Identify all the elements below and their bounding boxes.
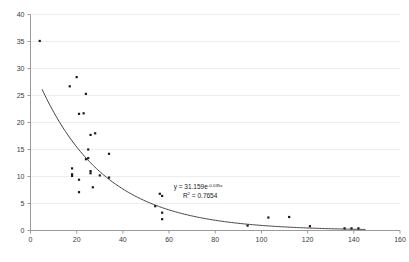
data-point	[343, 227, 345, 229]
data-point	[71, 167, 73, 169]
data-point	[92, 186, 94, 188]
data-point	[357, 227, 359, 229]
data-point	[87, 157, 89, 159]
data-point	[99, 174, 101, 176]
y-axis-tick-label: 30	[17, 65, 25, 72]
y-axis-tick-label: 40	[17, 11, 25, 18]
data-point	[89, 172, 91, 174]
data-point	[108, 176, 110, 178]
data-point	[78, 191, 80, 193]
y-axis-tick-label: 20	[17, 119, 25, 126]
y-axis-tick-label: 15	[17, 146, 25, 153]
data-point	[39, 40, 41, 42]
data-point	[78, 113, 80, 115]
y-axis-tick-label: 25	[17, 92, 25, 99]
data-point	[267, 216, 269, 218]
data-point	[161, 218, 163, 220]
data-point	[85, 158, 87, 160]
data-point	[159, 193, 161, 195]
data-point	[89, 134, 91, 136]
data-point	[350, 227, 352, 229]
x-axis-tick-label: 100	[256, 236, 268, 243]
data-point	[85, 93, 87, 95]
y-axis-tick-label: 0	[21, 227, 25, 234]
data-point	[83, 112, 85, 114]
data-point	[94, 132, 96, 134]
x-axis-tick-label: 120	[302, 236, 314, 243]
y-axis-tick-label: 35	[17, 38, 25, 45]
data-point	[87, 148, 89, 150]
data-point	[288, 216, 290, 218]
data-point	[154, 205, 156, 207]
x-axis-tick-label: 40	[119, 236, 127, 243]
chart-container: 0510152025303540 020406080100120140160 y…	[0, 0, 409, 262]
data-point	[161, 212, 163, 214]
data-point	[309, 225, 311, 227]
scatter-plot: 0510152025303540 020406080100120140160 y…	[0, 0, 409, 262]
y-axis-tick-label: 5	[21, 200, 25, 207]
data-point	[89, 170, 91, 172]
x-axis-tick-label: 20	[73, 236, 81, 243]
x-axis-tick-label: 140	[348, 236, 360, 243]
data-point	[161, 195, 163, 197]
x-axis-tick-label: 0	[29, 236, 33, 243]
y-axis-tick-label: 10	[17, 173, 25, 180]
x-axis-tick-label: 80	[211, 236, 219, 243]
data-point	[69, 85, 71, 87]
x-axis-tick-label: 60	[165, 236, 173, 243]
data-point	[108, 153, 110, 155]
data-point	[71, 175, 73, 177]
data-point	[78, 179, 80, 181]
data-point	[246, 225, 248, 227]
data-point	[76, 76, 78, 78]
x-axis-tick-label: 160	[394, 236, 406, 243]
plot-background	[0, 0, 409, 262]
